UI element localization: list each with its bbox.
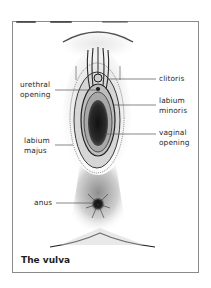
label-line: opening xyxy=(20,90,51,100)
label-line: vaginal xyxy=(159,128,190,138)
urethral-opening-shape xyxy=(96,87,100,91)
label-line: opening xyxy=(159,138,190,148)
label-line: minoris xyxy=(159,106,187,116)
label-labium-minoris: labium minoris xyxy=(159,96,187,115)
label-line: labium xyxy=(159,96,187,106)
figure-caption: The vulva xyxy=(21,255,70,265)
label-urethral-opening: urethral opening xyxy=(20,80,51,99)
clitoris-shape xyxy=(94,74,102,82)
label-line: majus xyxy=(24,146,50,156)
label-clitoris: clitoris xyxy=(159,74,184,84)
label-anus: anus xyxy=(34,198,52,208)
label-line: labium xyxy=(24,136,50,146)
label-line: urethral xyxy=(20,80,51,90)
vaginal-opening-shape xyxy=(88,100,108,146)
label-labium-majus: labium majus xyxy=(24,136,50,155)
label-vaginal-opening: vaginal opening xyxy=(159,128,190,147)
